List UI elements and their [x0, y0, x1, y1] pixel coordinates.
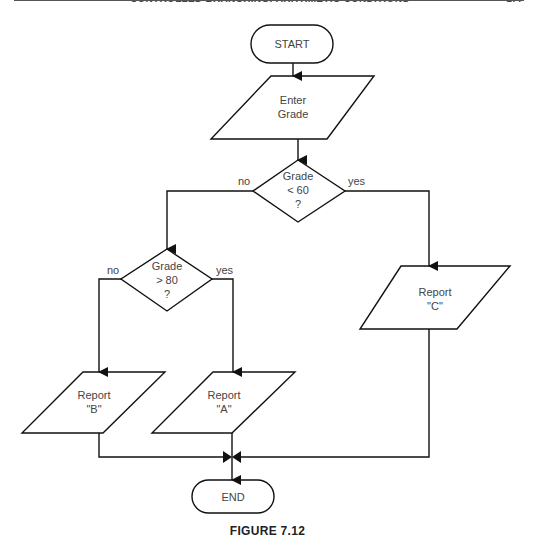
input-label-line2: Grade	[243, 107, 343, 121]
decision2-label: Grade > 80 ?	[127, 259, 207, 301]
report-b-line1: Report	[54, 388, 134, 402]
decision2-no-label: no	[107, 264, 119, 276]
decision1-no-label: no	[238, 175, 250, 187]
decision1-line3: ?	[258, 197, 338, 211]
start-label: START	[251, 37, 333, 51]
report-a-label: Report "A"	[184, 388, 264, 416]
connector-decision2-yes	[212, 279, 233, 372]
connector-report-c-junction	[240, 329, 429, 457]
decision2-yes-label: yes	[216, 264, 233, 276]
decision1-line1: Grade	[258, 169, 338, 183]
report-c-label: Report "C"	[395, 285, 475, 313]
decision2-line2: > 80	[127, 273, 207, 287]
flowchart-canvas	[0, 0, 535, 549]
report-a-line1: Report	[184, 388, 264, 402]
decision2-line1: Grade	[127, 259, 207, 273]
input-label: Enter Grade	[243, 93, 343, 121]
connector-decision1-yes	[345, 191, 429, 266]
end-label: END	[192, 490, 274, 504]
decision1-yes-label: yes	[348, 175, 365, 187]
decision2-line3: ?	[127, 287, 207, 301]
decision1-line2: < 60	[258, 183, 338, 197]
input-label-line1: Enter	[243, 93, 343, 107]
junction-arrow-right	[232, 451, 241, 463]
decision1-label: Grade < 60 ?	[258, 169, 338, 211]
report-c-line2: "C"	[395, 299, 475, 313]
report-c-line1: Report	[395, 285, 475, 299]
connector-decision1-no	[167, 191, 253, 249]
connector-report-b-junction	[99, 433, 224, 457]
junction-arrow-left	[223, 451, 232, 463]
report-b-label: Report "B"	[54, 388, 134, 416]
report-b-line2: "B"	[54, 402, 134, 416]
connector-decision2-no	[99, 279, 121, 372]
report-a-line2: "A"	[184, 402, 264, 416]
figure-caption: FIGURE 7.12	[0, 524, 535, 538]
